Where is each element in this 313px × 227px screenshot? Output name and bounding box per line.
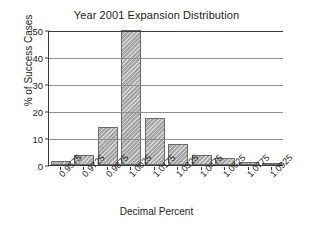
- bar-series: [49, 31, 283, 165]
- y-tick-label: 40: [32, 53, 49, 64]
- gridline: [49, 112, 283, 113]
- x-axis-label: Decimal Percent: [0, 206, 313, 217]
- bar: [121, 30, 141, 165]
- plot-area: 01020304050: [48, 31, 283, 166]
- gridline: [49, 31, 283, 32]
- y-tick-label: 10: [32, 134, 49, 145]
- y-tick-label: 20: [32, 107, 49, 118]
- y-tick-label: 50: [32, 26, 49, 37]
- gridline: [49, 139, 283, 140]
- x-axis-ticks: 0.95750.97250.98751.00251.01751.03251.04…: [48, 167, 283, 211]
- gridline: [49, 58, 283, 59]
- gridline: [49, 85, 283, 86]
- chart-container: Year 2001 Expansion Distribution % of Su…: [0, 0, 313, 227]
- chart-title: Year 2001 Expansion Distribution: [0, 9, 313, 21]
- y-tick-label: 30: [32, 80, 49, 91]
